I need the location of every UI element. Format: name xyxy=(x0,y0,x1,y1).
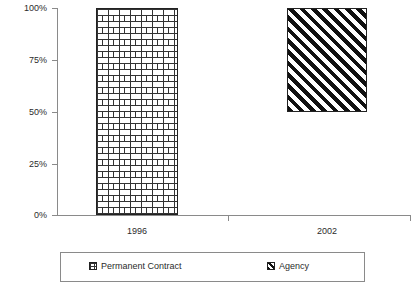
x-axis-line xyxy=(57,215,411,216)
y-axis-tick xyxy=(52,8,57,9)
y-axis-tick xyxy=(52,164,57,165)
x-axis-label-2002: 2002 xyxy=(287,226,367,236)
x-axis-label-1996: 1996 xyxy=(97,226,177,236)
bar-2002 xyxy=(287,8,367,215)
y-axis-tick xyxy=(52,112,57,113)
bar-segment-1996-permanent-contract xyxy=(96,8,178,215)
legend-label-agency: Agency xyxy=(279,261,309,271)
legend-swatch-hatch-icon xyxy=(267,262,275,270)
x-axis-tick xyxy=(410,216,411,221)
bar-1996 xyxy=(96,8,178,215)
legend-swatch-brick-icon xyxy=(89,262,97,270)
y-axis-label-0: 0% xyxy=(1,211,47,220)
y-axis-line xyxy=(57,8,58,216)
legend-item-permanent-contract: Permanent Contract xyxy=(89,261,182,271)
y-axis-tick xyxy=(52,60,57,61)
legend-label-permanent-contract: Permanent Contract xyxy=(101,261,182,271)
y-axis-tick xyxy=(52,215,57,216)
legend: Permanent Contract Agency xyxy=(60,252,365,282)
y-axis-label-75: 75% xyxy=(1,56,47,65)
y-axis-label-50: 50% xyxy=(1,108,47,117)
x-axis-tick xyxy=(228,216,229,221)
y-axis-label-100: 100% xyxy=(1,4,47,13)
bar-segment-2002-agency xyxy=(287,8,367,112)
legend-item-agency: Agency xyxy=(267,261,309,271)
y-axis-label-25: 25% xyxy=(1,160,47,169)
stacked-bar-chart: 100% 75% 50% 25% 0% 1996 2002 Permanent … xyxy=(0,0,419,289)
